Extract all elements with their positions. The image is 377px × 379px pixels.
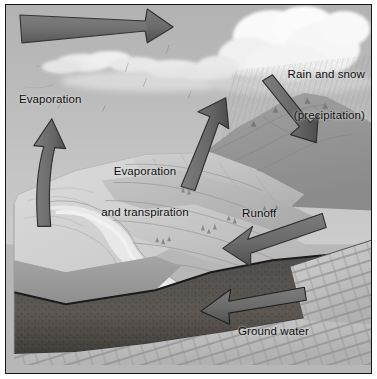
label-evaporation: Evaporation [19, 93, 81, 107]
ground-water-arrow [201, 287, 306, 324]
runoff-arrow [223, 213, 326, 266]
label-evaporation-transpiration-line2: and transpiration [90, 206, 200, 220]
label-precipitation-line1: Rain and snow [288, 68, 365, 82]
label-runoff: Runoff [242, 207, 276, 221]
label-precipitation: Rain and snow (precipitation) [288, 41, 365, 149]
illustration-scene: Rain and snow (precipitation) Evaporatio… [6, 5, 371, 373]
label-evaporation-transpiration: Evaporation and transpiration [90, 138, 200, 246]
evaporation-arrow [34, 119, 66, 227]
figure-frame: Rain and snow (precipitation) Evaporatio… [5, 4, 372, 374]
atmospheric-transport-arrow [20, 9, 173, 43]
water-cycle-figure: Rain and snow (precipitation) Evaporatio… [0, 0, 377, 379]
label-evaporation-transpiration-line1: Evaporation [90, 165, 200, 179]
label-ground-water: Ground water [238, 325, 309, 339]
label-precipitation-line2: (precipitation) [288, 109, 365, 123]
